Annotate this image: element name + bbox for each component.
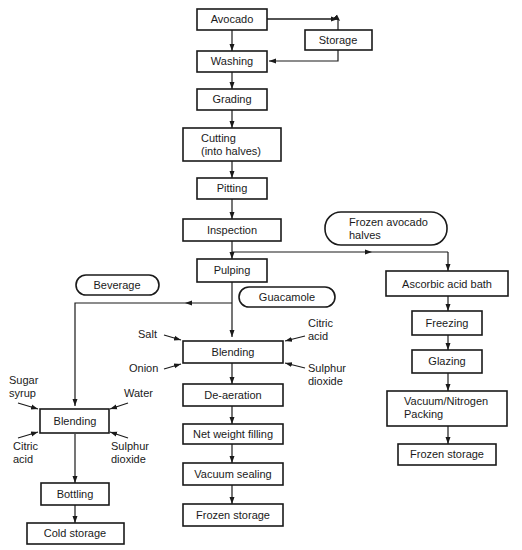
node-pulping: Pulping <box>197 259 267 282</box>
svg-text:Cold storage: Cold storage <box>44 527 106 539</box>
svg-text:Pitting: Pitting <box>217 182 248 194</box>
svg-text:Storage: Storage <box>319 34 358 46</box>
svg-text:Ascorbic acid bath: Ascorbic acid bath <box>402 278 492 290</box>
svg-text:Pulping: Pulping <box>214 264 251 276</box>
svg-text:Avocado: Avocado <box>211 13 254 25</box>
svg-text:Frozen storage: Frozen storage <box>196 509 270 521</box>
svg-text:Beverage: Beverage <box>93 279 140 291</box>
input-sulphur-dioxide-line1: Sulphur <box>111 440 149 452</box>
input-citric-acid-line1: Citric <box>308 317 334 329</box>
input-sulphur-dioxide-line2: dioxide <box>308 375 343 387</box>
node-storage: Storage <box>305 30 372 50</box>
svg-text:Blending: Blending <box>212 346 255 358</box>
node-net-weight-filling: Net weight filling <box>183 424 283 444</box>
terminal-guacamole: Guacamole <box>239 287 335 307</box>
node-pitting: Pitting <box>197 178 267 199</box>
node-vacuum-sealing: Vacuum sealing <box>183 463 283 485</box>
svg-text:Bottling: Bottling <box>57 488 94 500</box>
node-glazing: Glazing <box>412 350 482 373</box>
input-sulphur-dioxide-line2: dioxide <box>111 453 146 465</box>
node-guacamole-blending: Blending <box>183 341 283 363</box>
node-grading: Grading <box>197 89 267 110</box>
svg-text:De-aeration: De-aeration <box>204 389 261 401</box>
input-onion: Onion <box>129 362 158 374</box>
node-beverage-blending: Blending <box>40 409 109 433</box>
svg-text:Cutting: Cutting <box>201 132 236 144</box>
node-frozen-storage-halves: Frozen storage <box>398 444 496 465</box>
svg-text:Freezing: Freezing <box>426 317 469 329</box>
input-water: Water <box>124 387 153 399</box>
svg-text:Frozen storage: Frozen storage <box>410 448 484 460</box>
svg-text:Blending: Blending <box>54 415 97 427</box>
svg-text:Inspection: Inspection <box>207 224 257 236</box>
node-freezing: Freezing <box>412 311 482 335</box>
node-washing: Washing <box>197 51 267 72</box>
svg-text:Vacuum sealing: Vacuum sealing <box>194 468 271 480</box>
input-sulphur-dioxide-line1: Sulphur <box>308 362 346 374</box>
svg-text:Frozen avocado: Frozen avocado <box>349 216 428 228</box>
node-ascorbic-acid-bath: Ascorbic acid bath <box>386 271 508 296</box>
input-citric-acid-line2: acid <box>13 453 33 465</box>
svg-text:Grading: Grading <box>212 93 251 105</box>
node-frozen-storage-guacamole: Frozen storage <box>183 504 283 526</box>
svg-text:Net weight filling: Net weight filling <box>193 428 273 440</box>
terminal-frozen-avocado-halves: Frozen avocado halves <box>325 212 447 245</box>
terminal-beverage: Beverage <box>76 275 159 295</box>
input-citric-acid-line1: Citric <box>13 440 39 452</box>
node-cutting: Cutting (into halves) <box>183 128 281 161</box>
node-avocado: Avocado <box>197 9 267 30</box>
svg-text:Washing: Washing <box>211 55 253 67</box>
node-deaeration: De-aeration <box>183 384 283 406</box>
svg-text:Vacuum/Nitrogen: Vacuum/Nitrogen <box>404 395 488 407</box>
svg-text:(into halves): (into halves) <box>201 145 261 157</box>
svg-text:Packing: Packing <box>404 408 443 420</box>
input-citric-acid-line2: acid <box>308 330 328 342</box>
svg-text:Glazing: Glazing <box>428 355 465 367</box>
svg-text:Guacamole: Guacamole <box>259 291 315 303</box>
node-inspection: Inspection <box>183 219 281 241</box>
node-bottling: Bottling <box>41 483 109 505</box>
input-salt: Salt <box>138 328 157 340</box>
input-sugar-syrup-line1: Sugar <box>9 374 39 386</box>
avocado-processing-flowchart: Avocado Storage Washing Grading Cutting … <box>0 0 522 550</box>
node-vacuum-nitrogen-packing: Vacuum/Nitrogen Packing <box>387 391 507 426</box>
input-sugar-syrup-line2: syrup <box>9 387 36 399</box>
node-cold-storage: Cold storage <box>27 523 124 544</box>
svg-text:halves: halves <box>349 229 381 241</box>
